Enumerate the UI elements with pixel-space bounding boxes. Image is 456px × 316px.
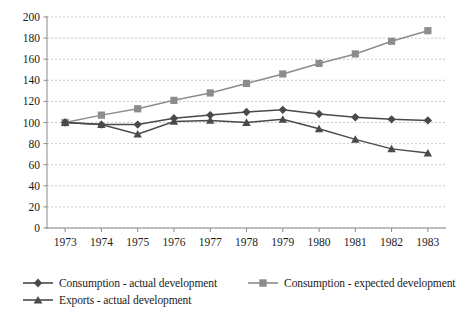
svg-text:1979: 1979: [271, 236, 294, 248]
svg-text:1977: 1977: [199, 236, 222, 248]
legend-marker-square-icon: [247, 276, 279, 290]
line-chart-svg: 020406080100120140160180200 197319741975…: [0, 0, 456, 256]
y-axis-line: [44, 16, 48, 229]
svg-text:1976: 1976: [162, 236, 185, 248]
svg-text:140: 140: [23, 74, 41, 86]
legend-marker-diamond-icon: [22, 276, 54, 290]
x-axis-line: [47, 228, 446, 232]
svg-text:80: 80: [29, 138, 41, 150]
plot-area: 020406080100120140160180200 197319741975…: [0, 0, 456, 256]
svg-text:40: 40: [29, 180, 41, 192]
svg-text:1982: 1982: [380, 236, 403, 248]
legend-label-consumption-expected: Consumption - expected development: [284, 276, 455, 290]
legend-marker-triangle-icon: [22, 293, 54, 307]
svg-text:1981: 1981: [344, 236, 367, 248]
legend-row-1: Consumption - actual development Consump…: [22, 274, 456, 291]
x-tick-labels: 1973197419751976197719781979198019811982…: [54, 236, 440, 248]
chart-container: 020406080100120140160180200 197319741975…: [0, 0, 456, 316]
svg-text:180: 180: [23, 32, 41, 44]
y-tick-labels: 020406080100120140160180200: [23, 11, 41, 234]
svg-text:120: 120: [23, 95, 41, 107]
svg-text:1983: 1983: [416, 236, 439, 248]
legend-label-consumption-actual: Consumption - actual development: [59, 276, 217, 290]
legend-item-exports-actual[interactable]: Exports - actual development: [22, 293, 191, 307]
legend-item-consumption-actual[interactable]: Consumption - actual development: [22, 276, 217, 290]
legend-item-consumption-expected[interactable]: Consumption - expected development: [247, 276, 455, 290]
svg-text:1973: 1973: [54, 236, 77, 248]
legend-row-2: Exports - actual development: [22, 291, 456, 308]
svg-text:1978: 1978: [235, 236, 258, 248]
legend-label-exports-actual: Exports - actual development: [59, 293, 191, 307]
svg-text:60: 60: [29, 159, 41, 171]
series-lines: [65, 31, 428, 153]
svg-text:1980: 1980: [308, 236, 331, 248]
svg-text:0: 0: [34, 222, 40, 234]
chart-legend: Consumption - actual development Consump…: [22, 274, 456, 308]
svg-text:100: 100: [23, 117, 41, 129]
svg-text:1974: 1974: [90, 236, 113, 248]
svg-text:160: 160: [23, 53, 41, 65]
svg-text:20: 20: [29, 201, 41, 213]
svg-text:1975: 1975: [126, 236, 149, 248]
svg-text:200: 200: [23, 11, 41, 23]
